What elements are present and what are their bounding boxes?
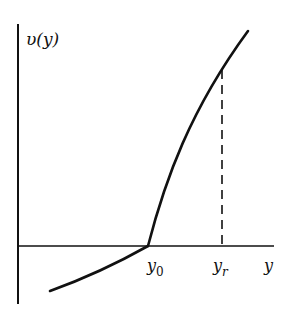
diagram: υ(y) y0 yr y (0, 0, 288, 318)
curve-negative-part (50, 246, 148, 291)
y0-label: y0 (146, 256, 164, 279)
yr-label-sub: r (222, 265, 229, 279)
x-axis-label: y (263, 256, 274, 275)
y0-label-sub: 0 (156, 265, 164, 279)
yr-label: yr (212, 256, 229, 279)
curve-positive-part (148, 31, 248, 246)
y-axis-label: υ(y) (26, 29, 59, 49)
